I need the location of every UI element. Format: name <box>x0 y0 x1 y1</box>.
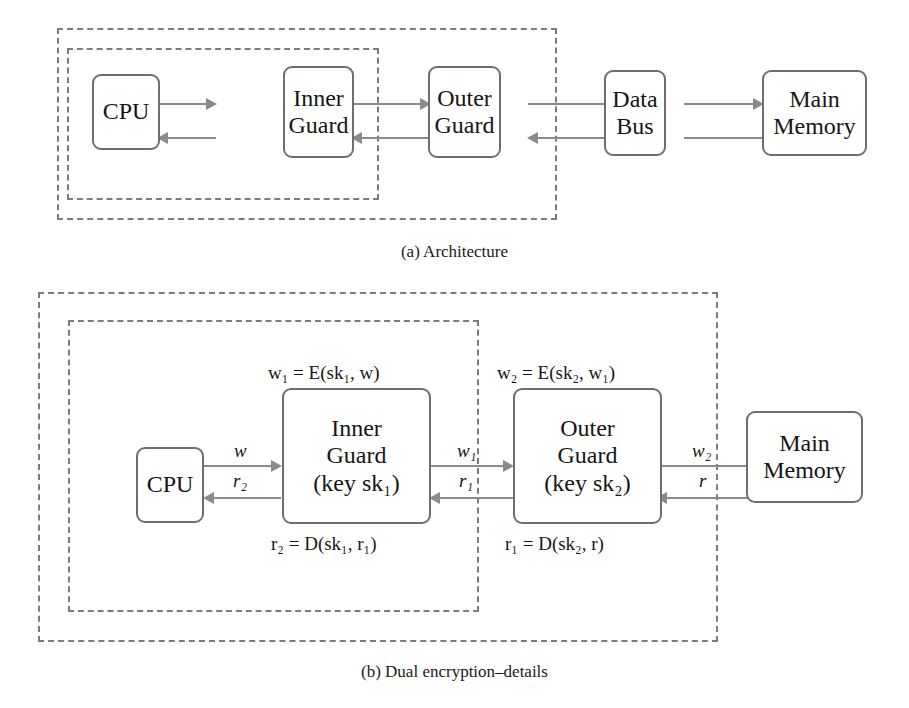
figure-a-caption: (a) Architecture <box>0 242 909 262</box>
figure-b-node-inner-guard-line-2: (key sk₁) <box>313 470 399 497</box>
figure-a-node-main-memory-line-0: Main <box>789 86 840 113</box>
figure-a-node-main-memory-line-1: Memory <box>773 113 856 140</box>
figure-b-node-inner-guard-line-1: Guard <box>327 442 387 469</box>
figure-b-node-main-memory[interactable]: Main Memory <box>746 411 863 503</box>
figure-a-node-inner-guard-line-0: Inner <box>293 85 344 112</box>
figure-canvas: SOME IMPLEMENTATION CPU I <box>0 0 909 708</box>
figure-b-label-read-r: r <box>699 470 706 492</box>
figure-a-edge-outer-to-inner <box>357 137 430 139</box>
figure-a-node-main-memory[interactable]: Main Memory <box>762 70 867 156</box>
figure-b-edge-inner-to-outer <box>430 465 508 467</box>
figure-b-node-main-memory-line-1: Memory <box>763 457 846 484</box>
figure-b-edge-outer-to-memory <box>662 465 748 467</box>
figure-b-formula-outer-decrypt: r₁ = D(sk₂, r) <box>505 533 604 555</box>
figure-a-edge-cpu-to-inner <box>158 103 211 105</box>
figure-b-node-inner-guard[interactable]: Inner Guard (key sk₁) <box>282 388 431 524</box>
figure-b-arrowhead-inner-to-cpu <box>203 492 214 504</box>
figure-b-node-cpu[interactable]: CPU <box>136 447 204 523</box>
figure-b-arrowhead-cpu-to-inner <box>271 460 282 472</box>
figure-a-edge-inner-to-outer <box>352 103 425 105</box>
figure-b-node-outer-guard[interactable]: Outer Guard (key sk₂) <box>513 388 662 524</box>
figure-a-edge-outer-to-bus <box>528 103 606 105</box>
figure-b-node-main-memory-line-0: Main <box>779 430 830 457</box>
figure-a-node-cpu[interactable]: CPU <box>92 74 160 150</box>
figure-a-edge-bus-to-outer <box>533 137 606 139</box>
figure-a-node-outer-guard-line-1: Guard <box>435 112 495 139</box>
figure-a-edge-memory-to-bus <box>684 137 764 139</box>
figure-b-node-inner-guard-line-0: Inner <box>331 415 382 442</box>
figure-b-formula-outer-encrypt: w₂ = E(sk₂, w₁) <box>497 362 615 384</box>
figure-b-edge-inner-to-cpu <box>209 497 281 499</box>
figure-b-label-write-w1: w₁ <box>457 440 476 462</box>
figure-b-label-read-r1: r₁ <box>459 470 473 492</box>
figure-b-label-write-w: w <box>234 440 247 462</box>
figure-b-formula-inner-encrypt: w₁ = E(sk₁, w) <box>268 362 380 384</box>
figure-a-arrowhead-cpu-to-inner <box>206 98 217 110</box>
figure-b-node-cpu-line-0: CPU <box>147 471 194 498</box>
figure-b-node-outer-guard-line-2: (key sk₂) <box>544 470 630 497</box>
figure-b-label-read-r2: r₂ <box>233 470 247 492</box>
figure-a-node-outer-guard[interactable]: Outer Guard <box>428 66 501 158</box>
figure-a-edge-inner-to-cpu <box>163 137 216 139</box>
figure-a-node-inner-guard-line-1: Guard <box>289 112 349 139</box>
figure-a-node-data-bus-line-1: Bus <box>616 113 653 140</box>
figure-b-edge-outer-to-inner <box>435 497 513 499</box>
figure-a-node-data-bus-line-0: Data <box>612 86 657 113</box>
figure-b-formula-inner-decrypt: r₂ = D(sk₁, r₁) <box>271 533 377 555</box>
figure-a-node-data-bus[interactable]: Data Bus <box>604 70 666 156</box>
figure-b-label-write-w2: w₂ <box>692 440 711 462</box>
figure-a-edge-bus-to-memory <box>684 103 758 105</box>
figure-a-arrowhead-bus-to-outer <box>527 132 538 144</box>
figure-a-node-inner-guard[interactable]: Inner Guard <box>283 66 354 158</box>
figure-a-node-outer-guard-line-0: Outer <box>437 85 492 112</box>
figure-a-node-cpu-line-0: CPU <box>103 98 150 125</box>
figure-b-edge-cpu-to-inner <box>204 465 276 467</box>
figure-b-edge-memory-to-outer <box>662 497 748 499</box>
figure-b-node-outer-guard-line-0: Outer <box>560 415 615 442</box>
figure-b-caption: (b) Dual encryption–details <box>0 662 909 682</box>
figure-b-node-outer-guard-line-1: Guard <box>558 442 618 469</box>
